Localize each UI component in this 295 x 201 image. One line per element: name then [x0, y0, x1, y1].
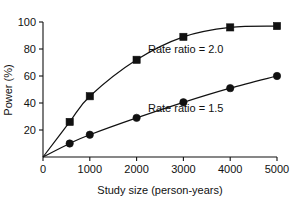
data-point-square [133, 56, 140, 63]
data-point-square [227, 24, 234, 31]
x-tick-label: 3000 [171, 163, 195, 175]
y-tick-label: 60 [24, 70, 36, 82]
chart-canvas: 20406080100 010002000300040005000 Study … [0, 0, 295, 201]
data-point-circle [273, 72, 280, 79]
y-tick-label: 100 [18, 16, 36, 28]
series-2 [43, 72, 281, 157]
y-axis-ticks [39, 22, 43, 130]
x-tick-label: 5000 [265, 163, 289, 175]
power-vs-study-size-chart: 20406080100 010002000300040005000 Study … [0, 0, 295, 201]
x-axis-ticks [43, 157, 277, 161]
y-axis-tick-labels: 20406080100 [18, 16, 36, 136]
y-tick-label: 20 [24, 124, 36, 136]
data-point-square [86, 93, 93, 100]
data-point-circle [66, 140, 73, 147]
y-axis-title: Power (%) [2, 64, 14, 115]
data-point-square [273, 22, 280, 29]
data-point-circle [133, 114, 140, 121]
series-line [43, 76, 277, 157]
data-point-circle [86, 131, 93, 138]
y-tick-label: 40 [24, 97, 36, 109]
data-point-square [180, 33, 187, 40]
series-annotations: Rate ratio = 2.0Rate ratio = 1.5 [148, 43, 224, 114]
x-axis-tick-labels: 010002000300040005000 [40, 163, 289, 175]
x-tick-label: 4000 [218, 163, 242, 175]
data-point-square [66, 118, 73, 125]
x-tick-label: 0 [40, 163, 46, 175]
x-tick-label: 2000 [124, 163, 148, 175]
x-axis-title: Study size (person-years) [97, 184, 222, 196]
data-point-circle [227, 84, 234, 91]
annotation-label-2: Rate ratio = 1.5 [148, 102, 224, 114]
annotation-label-1: Rate ratio = 2.0 [148, 43, 224, 55]
x-tick-label: 1000 [78, 163, 102, 175]
y-tick-label: 80 [24, 43, 36, 55]
